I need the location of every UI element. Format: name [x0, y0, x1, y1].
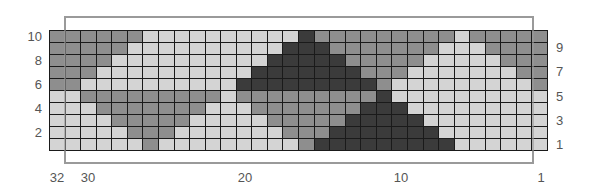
stitch-cell-r5-c1	[532, 91, 547, 102]
stitch-cell-r3-c2	[517, 115, 532, 126]
stitch-cell-r8-c6	[455, 55, 470, 66]
stitch-cell-r7-c19	[252, 67, 267, 78]
stitch-cell-r4-c5	[470, 103, 485, 114]
stitch-cell-r1-c9	[408, 139, 423, 150]
stitch-cell-r7-c10	[392, 67, 407, 78]
stitch-cell-r1-c26	[143, 139, 158, 150]
stitch-cell-r5-c20	[237, 91, 252, 102]
stitch-cell-r9-c4	[486, 43, 501, 54]
stitch-cell-r1-c15	[315, 139, 330, 150]
stitch-cell-r5-c18	[268, 91, 283, 102]
stitch-cell-r5-c9	[408, 91, 423, 102]
stitch-cell-r2-c17	[283, 127, 298, 138]
stitch-cell-r5-c23	[190, 91, 205, 102]
stitch-cell-r5-c29	[97, 91, 112, 102]
stitch-cell-r9-c24	[175, 43, 190, 54]
stitch-cell-r3-c19	[252, 115, 267, 126]
stitch-cell-r10-c17	[283, 31, 298, 42]
stitch-cell-r10-c1	[532, 31, 547, 42]
stitch-cell-r1-c12	[361, 139, 376, 150]
stitch-cell-r2-c23	[190, 127, 205, 138]
stitch-cell-r6-c13	[346, 79, 361, 90]
stitch-cell-r3-c11	[377, 115, 392, 126]
stitch-cell-r5-c32	[50, 91, 65, 102]
stitch-cell-r8-c9	[408, 55, 423, 66]
stitch-cell-r2-c21	[221, 127, 236, 138]
stitch-cell-r7-c31	[66, 67, 81, 78]
stitch-cell-r1-c16	[299, 139, 314, 150]
stitch-cell-r8-c5	[470, 55, 485, 66]
stitch-cell-r5-c30	[81, 91, 96, 102]
stitch-cell-r1-c31	[66, 139, 81, 150]
stitch-cell-r4-c19	[252, 103, 267, 114]
stitch-cell-r2-c18	[268, 127, 283, 138]
stitch-cell-r10-c29	[97, 31, 112, 42]
stitch-cell-r5-c8	[424, 91, 439, 102]
stitch-cell-r7-c9	[408, 67, 423, 78]
stitch-cell-r10-c14	[330, 31, 345, 42]
stitch-cell-r3-c31	[66, 115, 81, 126]
stitch-cell-r9-c7	[439, 43, 454, 54]
stitch-cell-r3-c5	[470, 115, 485, 126]
stitch-cell-r2-c30	[81, 127, 96, 138]
stitch-cell-r1-c11	[377, 139, 392, 150]
stitch-cell-r7-c28	[112, 67, 127, 78]
stitch-cell-r2-c1	[532, 127, 547, 138]
stitch-cell-r10-c12	[361, 31, 376, 42]
stitch-cell-r5-c2	[517, 91, 532, 102]
stitch-cell-r1-c6	[455, 139, 470, 150]
stitch-cell-r10-c18	[268, 31, 283, 42]
stitch-cell-r2-c11	[377, 127, 392, 138]
stitch-cell-r4-c10	[392, 103, 407, 114]
stitch-cell-r2-c31	[66, 127, 81, 138]
stitch-cell-r7-c21	[221, 67, 236, 78]
stitch-cell-r8-c32	[50, 55, 65, 66]
stitch-cell-r8-c31	[66, 55, 81, 66]
stitch-cell-r6-c27	[128, 79, 143, 90]
stitch-cell-r6-c1	[532, 79, 547, 90]
stitch-cell-r8-c22	[206, 55, 221, 66]
stitch-cell-r3-c4	[486, 115, 501, 126]
stitch-cell-r9-c30	[81, 43, 96, 54]
stitch-cell-r6-c22	[206, 79, 221, 90]
stitch-cell-r6-c15	[315, 79, 330, 90]
stitch-cell-r6-c8	[424, 79, 439, 90]
stitch-cell-r3-c24	[175, 115, 190, 126]
stitch-cell-r3-c27	[128, 115, 143, 126]
stitch-cell-r6-c11	[377, 79, 392, 90]
stitch-cell-r9-c13	[346, 43, 361, 54]
stitch-cell-r10-c25	[159, 31, 174, 42]
stitch-cell-r5-c26	[143, 91, 158, 102]
stitch-cell-r3-c14	[330, 115, 345, 126]
stitch-cell-r9-c8	[424, 43, 439, 54]
row-label-3: 3	[556, 114, 576, 127]
stitch-cell-r1-c28	[112, 139, 127, 150]
stitch-cell-r2-c7	[439, 127, 454, 138]
stitch-cell-r10-c22	[206, 31, 221, 42]
stitch-cell-r7-c32	[50, 67, 65, 78]
stitch-cell-r1-c13	[346, 139, 361, 150]
stitch-cell-r4-c4	[486, 103, 501, 114]
stitch-cell-r7-c7	[439, 67, 454, 78]
stitch-cell-r10-c3	[501, 31, 516, 42]
stitch-cell-r5-c21	[221, 91, 236, 102]
stitch-cell-r10-c11	[377, 31, 392, 42]
stitch-cell-r1-c1	[532, 139, 547, 150]
stitch-cell-r7-c1	[532, 67, 547, 78]
stitch-cell-r1-c5	[470, 139, 485, 150]
stitch-cell-r10-c24	[175, 31, 190, 42]
stitch-cell-r4-c6	[455, 103, 470, 114]
stitch-cell-r4-c9	[408, 103, 423, 114]
stitch-cell-r5-c6	[455, 91, 470, 102]
stitch-cell-r8-c25	[159, 55, 174, 66]
stitch-cell-r2-c9	[408, 127, 423, 138]
stitch-cell-r9-c20	[237, 43, 252, 54]
stitch-cell-r6-c7	[439, 79, 454, 90]
stitch-cell-r2-c15	[315, 127, 330, 138]
stitch-cell-r2-c5	[470, 127, 485, 138]
stitch-cell-r3-c17	[283, 115, 298, 126]
stitch-cell-r1-c17	[283, 139, 298, 150]
repeat-bracket-bottom	[64, 149, 534, 164]
stitch-cell-r4-c1	[532, 103, 547, 114]
stitch-cell-r9-c23	[190, 43, 205, 54]
